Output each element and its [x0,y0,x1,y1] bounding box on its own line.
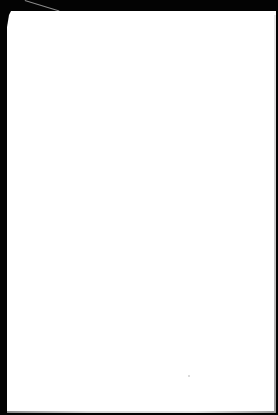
paper-right-edge [274,15,276,411]
photo-scene [0,0,278,415]
diagonal-line [25,0,60,11]
blank-paper-sheet [7,11,276,413]
dust-speck [188,375,190,377]
paper-bottom-edge [7,411,276,413]
